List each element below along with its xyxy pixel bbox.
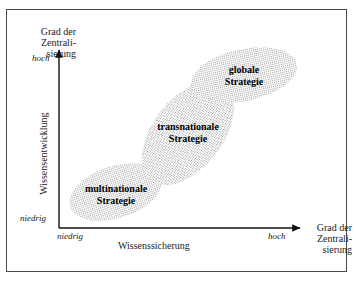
x-axis-title-line-2: Zentrali- bbox=[308, 233, 352, 244]
bubble-label-transnationale-line-1: transnationale bbox=[136, 121, 240, 133]
bubble-label-globale: globale Strategie bbox=[204, 64, 284, 88]
bubble-label-multinationale-line-2: Strategie bbox=[64, 195, 168, 207]
y-axis-name: Wissensentwicklung bbox=[38, 94, 49, 214]
x-axis-title-line-1: Grad der bbox=[308, 222, 352, 233]
x-axis-tick-low: niedrig bbox=[57, 231, 83, 241]
bubble-label-transnationale-line-2: Strategie bbox=[136, 133, 240, 145]
x-axis-tick-high: hoch bbox=[268, 231, 286, 241]
x-axis-title-line-3: sierung bbox=[308, 244, 352, 255]
y-axis-title-line-2: Zentrali- bbox=[14, 37, 76, 48]
bubble-label-globale-line-1: globale bbox=[204, 64, 284, 76]
x-axis-name: Wissenssicherung bbox=[118, 240, 190, 251]
figure-container: Grad der Zentrali- sierung Grad der Zent… bbox=[0, 0, 356, 281]
y-axis-tick-high: hoch bbox=[32, 53, 50, 63]
bubble-label-multinationale-line-1: multinationale bbox=[64, 183, 168, 195]
x-axis-title: Grad der Zentrali- sierung bbox=[308, 222, 352, 256]
y-axis-title-line-1: Grad der bbox=[14, 26, 76, 37]
bubble-label-transnationale: transnationale Strategie bbox=[136, 121, 240, 145]
bubble-label-multinationale: multinationale Strategie bbox=[64, 183, 168, 207]
bubble-label-globale-line-2: Strategie bbox=[204, 76, 284, 88]
y-axis-tick-low: niedrig bbox=[20, 213, 46, 223]
